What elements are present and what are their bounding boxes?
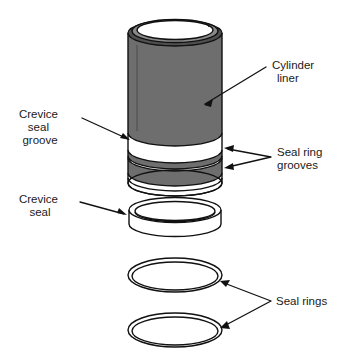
label-seal-ring-grooves-line2: grooves: [277, 159, 318, 171]
crevice-seal-part: [129, 198, 221, 237]
label-seal-ring-grooves-line1: Seal ring: [277, 146, 322, 158]
leader-seal-rings: [220, 280, 271, 329]
leader-crevice-seal-groove: [82, 118, 130, 140]
leader-crevice-seal: [80, 202, 127, 215]
label-crevice-seal-line2: seal: [29, 206, 50, 218]
label-crevice-seal: Crevice seal: [19, 193, 61, 218]
seal-ring-1-part: [128, 258, 222, 292]
leader-line-crevice-seal-groove: [82, 118, 128, 139]
label-crevice-seal-line1: Crevice: [19, 193, 58, 205]
cylinder-liner-part: [128, 20, 222, 197]
leader-line-seal-ring-grooves: [228, 149, 271, 167]
label-crevice-seal-groove-line3: groove: [22, 134, 57, 146]
arrowhead-seal-ring-groove-2: [224, 163, 234, 170]
label-cylinder-liner-line1: Cylinder: [272, 59, 314, 71]
label-crevice-seal-groove-line1: Crevice: [19, 108, 58, 120]
seal-ring-2-part: [128, 313, 222, 347]
diagram-root: Cylinder liner Crevice seal groove Seal …: [0, 0, 337, 362]
label-seal-ring-grooves: Seal ring grooves: [277, 146, 326, 171]
label-crevice-seal-groove: Crevice seal groove: [19, 108, 61, 146]
label-crevice-seal-groove-line2: seal: [28, 121, 49, 133]
arrowhead-seal-ring-groove-1: [224, 145, 234, 152]
label-seal-rings: Seal rings: [276, 295, 327, 307]
arrowhead-crevice-seal: [117, 208, 127, 215]
label-cylinder-liner: Cylinder liner: [272, 59, 317, 84]
arrowhead-seal-ring-1: [220, 280, 230, 287]
leader-line-seal-rings: [224, 283, 271, 326]
leader-seal-ring-grooves: [224, 145, 271, 170]
label-seal-rings-line1: Seal rings: [276, 295, 327, 307]
cylinder-liner-exploded-diagram: Cylinder liner Crevice seal groove Seal …: [0, 0, 337, 362]
label-cylinder-liner-line2: liner: [277, 72, 299, 84]
arrowhead-seal-ring-2: [220, 321, 230, 329]
